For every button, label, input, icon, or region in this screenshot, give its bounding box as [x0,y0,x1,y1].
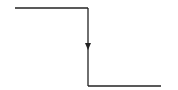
arrow-down-icon [85,43,91,50]
step-connector-diagram [0,0,178,90]
